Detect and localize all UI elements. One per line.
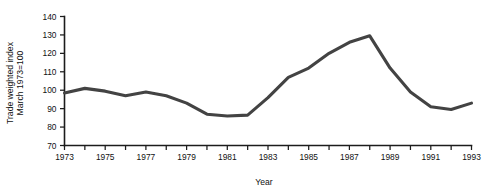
y-axis-title-line-1: Trade weighted index (5, 41, 15, 124)
trade-weighted-index-line (65, 36, 472, 116)
x-tick-label-1983: 1983 (259, 152, 278, 162)
x-tick-label-1993: 1993 (462, 152, 481, 162)
y-tick-label-100: 100 (43, 85, 57, 95)
x-tick-label-1987: 1987 (340, 152, 359, 162)
x-tick-label-1985: 1985 (299, 152, 318, 162)
axis-titles: Year Trade weighted index March 1973=100 (5, 41, 273, 187)
x-axis-ticks (65, 146, 472, 151)
chart-axes (65, 17, 472, 146)
y-axis-title-line-2: March 1973=100 (15, 50, 25, 115)
x-tick-label-1991: 1991 (421, 152, 440, 162)
y-tick-label-110: 110 (43, 67, 57, 77)
y-tick-label-140: 140 (43, 12, 57, 22)
line-chart: 708090100110120130140 197319751977197919… (0, 0, 486, 189)
y-axis-tick-labels: 708090100110120130140 (43, 12, 57, 151)
y-tick-label-80: 80 (47, 122, 57, 132)
y-tick-label-120: 120 (43, 48, 57, 58)
x-tick-label-1979: 1979 (177, 152, 196, 162)
chart-container: 708090100110120130140 197319751977197919… (0, 0, 486, 189)
data-series-group (65, 36, 472, 116)
y-tick-label-130: 130 (43, 30, 57, 40)
x-axis-title: Year (255, 177, 273, 187)
y-tick-label-70: 70 (47, 141, 57, 151)
x-tick-label-1981: 1981 (218, 152, 237, 162)
x-tick-label-1975: 1975 (96, 152, 115, 162)
x-tick-label-1989: 1989 (381, 152, 400, 162)
x-tick-label-1977: 1977 (137, 152, 156, 162)
x-axis-tick-labels: 1973197519771979198119831985198719891991… (55, 152, 481, 162)
x-tick-label-1973: 1973 (55, 152, 74, 162)
y-tick-label-90: 90 (47, 104, 57, 114)
